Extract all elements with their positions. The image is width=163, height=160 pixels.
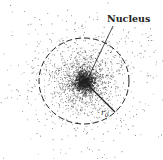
radius-line (84, 81, 115, 112)
radius-label: r0 (101, 108, 109, 118)
radius-subscript: 0 (105, 111, 109, 118)
electron-cloud-diagram: Nucleus r0 (0, 0, 163, 159)
electron-cloud (1, 3, 163, 160)
nucleus-label: Nucleus (107, 13, 150, 24)
